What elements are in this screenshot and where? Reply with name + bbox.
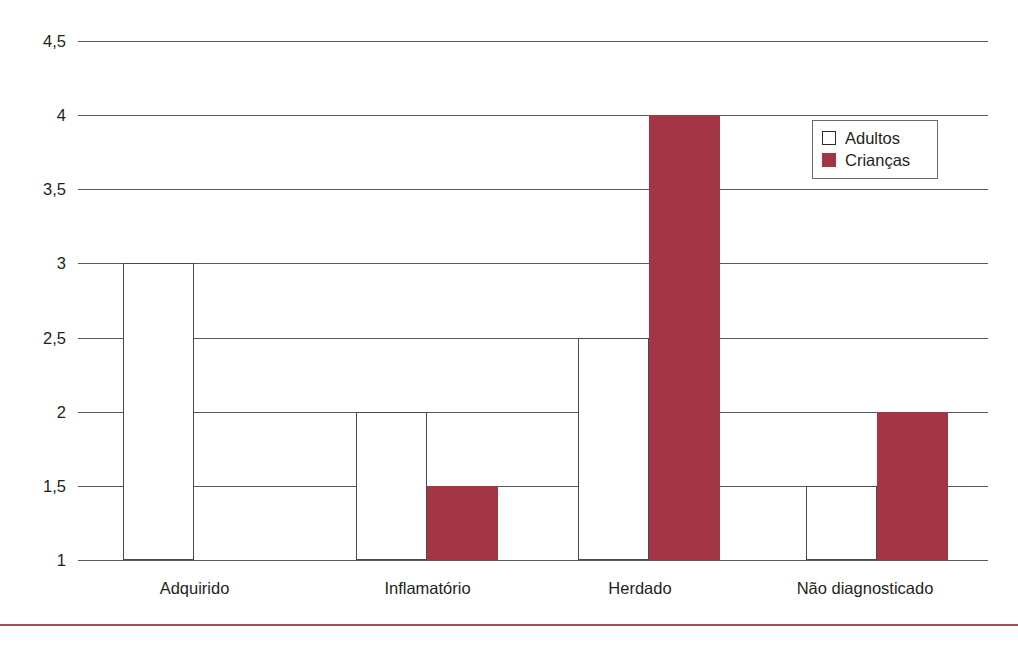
legend-label-adultos: Adultos (845, 129, 900, 147)
y-tick-label: 3,5 (20, 179, 66, 199)
y-tick-label: 1 (20, 550, 66, 570)
legend-label-criancas: Crianças (845, 151, 910, 169)
x-axis-label-adquirido: Adquirido (78, 578, 311, 598)
bottom-divider-rule (0, 624, 1018, 626)
plot-area: 4,5 4 3,5 3 2,5 2 1,5 1 (78, 41, 988, 560)
bar-adultos-adquirido[interactable] (123, 263, 194, 560)
legend-item-adultos[interactable]: Adultos (822, 127, 929, 149)
bar-criancas-herdado[interactable] (649, 115, 720, 560)
legend-swatch-adultos-icon (822, 131, 836, 145)
x-axis-label-nao-diagnosticado: Não diagnosticado (742, 578, 988, 598)
y-tick-label: 4 (20, 105, 66, 125)
gridline-baseline (78, 560, 988, 561)
bar-chart-figure: 4,5 4 3,5 3 2,5 2 1,5 1 (0, 0, 1018, 645)
y-tick-label: 4,5 (20, 31, 66, 51)
bars-layer (78, 41, 988, 560)
legend-item-criancas[interactable]: Crianças (822, 149, 929, 171)
bar-adultos-nao-diagnosticado[interactable] (806, 486, 877, 560)
x-axis-label-inflamatorio: Inflamatório (311, 578, 544, 598)
y-tick-label: 2 (20, 402, 66, 422)
bar-adultos-inflamatorio[interactable] (356, 412, 427, 560)
x-axis-label-herdado: Herdado (549, 578, 731, 598)
bar-criancas-nao-diagnosticado[interactable] (877, 412, 948, 560)
y-tick-label: 2,5 (20, 328, 66, 348)
chart-legend: Adultos Crianças (812, 120, 938, 179)
legend-swatch-criancas-icon (822, 153, 836, 167)
bar-criancas-inflamatorio[interactable] (427, 486, 498, 560)
bar-adultos-herdado[interactable] (578, 338, 649, 560)
y-tick-label: 3 (20, 253, 66, 273)
y-tick-label: 1,5 (20, 476, 66, 496)
